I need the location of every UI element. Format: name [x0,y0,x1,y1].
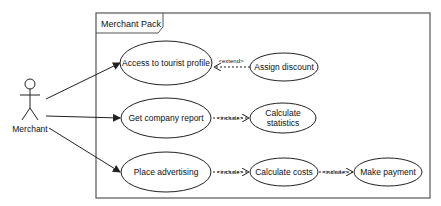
use-case-place-advertising[interactable]: Place advertising [121,152,211,192]
include-label: <include> [217,169,244,175]
use-case-assign-discount[interactable]: Assign discount [250,53,318,81]
actor-merchant[interactable]: Merchant [12,79,48,134]
include-label: <include> [322,169,349,175]
use-case-calculate-costs[interactable]: Calculate costs [250,158,318,186]
use-case-diagram: Merchant Pack Merchant Access to tourist… [0,0,441,206]
use-case-calculate-statistics[interactable]: Calculate statistics [250,103,316,133]
use-case-get-company-report[interactable]: Get company report [121,98,211,138]
include-relation-1: <include> [213,115,249,121]
extend-label: <extend> [218,58,244,64]
use-case-label: Get company report [128,113,204,123]
use-case-label: statistics [267,118,300,128]
include-label: <include> [217,115,244,121]
use-case-make-payment[interactable]: Make payment [354,158,422,186]
use-case-label: Make payment [360,167,416,177]
use-case-label: Calculate costs [255,167,313,177]
system-boundary-label: Merchant Pack [101,19,162,29]
use-case-label: Calculate [265,108,301,118]
use-case-label: Access to tourist profile [122,58,210,68]
include-relation-2: <include> [213,169,249,175]
use-case-label: Assign discount [254,62,314,72]
association-lines [46,63,120,172]
use-case-label: Place advertising [134,167,199,177]
use-case-access-tourist-profile[interactable]: Access to tourist profile [120,41,212,85]
actor-label: Merchant [12,124,48,134]
extend-relation: <extend> [214,58,250,67]
include-relation-3: <include> [319,169,353,175]
